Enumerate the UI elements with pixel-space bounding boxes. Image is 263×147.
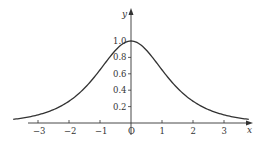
y-tick-label: 0.4 [113,85,127,95]
x-axis-label: x [247,125,252,135]
x-tick-label: −2 [64,126,77,136]
ticks: −3−2−1O1230.20.40.60.81.0 [33,36,227,136]
y-tick-label: 1.0 [113,36,127,46]
x-tick-label: −3 [33,126,46,136]
y-axis-label: y [121,9,128,19]
y-axis-arrow-icon [129,8,134,15]
x-tick-label: 1 [160,126,165,136]
y-tick-label: 0.8 [113,52,127,62]
x-tick-label: −1 [95,126,108,136]
axes: xy [28,8,253,135]
y-tick-label: 0.6 [113,69,127,79]
x-tick-label: O [128,126,135,136]
sech-curve-chart: xy −3−2−1O1230.20.40.60.81.0 [0,0,263,147]
x-tick-label: 2 [191,126,196,136]
x-tick-label: 3 [222,126,227,136]
y-tick-label: 0.2 [113,102,127,112]
